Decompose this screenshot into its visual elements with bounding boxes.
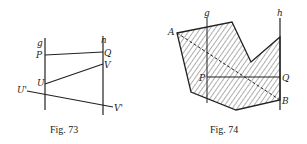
caption-fig74: Fig. 74 (210, 124, 238, 135)
label-A: A (167, 27, 175, 37)
label-g: g (204, 8, 210, 18)
label-B: B (281, 96, 289, 106)
label-Q: Q (104, 48, 112, 58)
diagram-canvas: g h P Q V U U' V' Fig. 73 g h A B P Q Fi… (0, 0, 307, 144)
label-V: V (104, 60, 112, 70)
label-V-prime: V' (114, 103, 123, 113)
label-P: P (35, 50, 43, 60)
label-g: g (37, 38, 43, 48)
label-U-prime: U' (17, 85, 27, 95)
segment-PQ (45, 52, 103, 55)
label-P: P (198, 73, 206, 83)
figure-74: g h A B P Q Fig. 74 (167, 8, 290, 135)
label-h: h (101, 35, 107, 45)
segment-UV (45, 64, 103, 84)
label-h: h (277, 8, 283, 18)
line-U'V' (27, 91, 113, 107)
label-U: U (37, 78, 45, 88)
caption-fig73: Fig. 73 (50, 124, 78, 135)
figure-73: g h P Q V U U' V' Fig. 73 (17, 35, 123, 135)
label-Q: Q (282, 73, 290, 83)
